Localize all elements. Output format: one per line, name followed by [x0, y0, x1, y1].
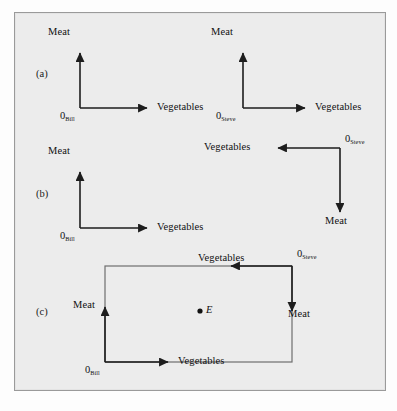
panel-b-bill-vegetables-label: Vegetables: [157, 221, 203, 232]
panel-a-steve-origin-subscript: Steve: [221, 115, 235, 122]
panel-c-steve-vegetables-label: Vegetables: [198, 252, 244, 263]
panel-a-steve-meat-label: Meat: [211, 26, 233, 37]
panel-b-steve-vegetables-label: Vegetables: [204, 141, 250, 152]
panel-b-bill-origin: 0Bill: [60, 230, 75, 241]
edgeworth-box-figure: (a) (b) (c) Meat Vegetables 0Bill Meat V…: [0, 0, 397, 411]
point-e-label: E: [206, 304, 213, 315]
panel-b-steve-meat-label: Meat: [325, 215, 347, 226]
panel-a-bill-vegetables-label: Vegetables: [157, 101, 203, 112]
panel-letter-c: (c): [36, 306, 48, 317]
panel-b-steve-origin: 0Steve: [345, 133, 365, 144]
figure-frame: [14, 12, 386, 391]
panel-a-bill-meat-label: Meat: [48, 26, 70, 37]
panel-b-steve-origin-subscript: Steve: [350, 138, 364, 145]
panel-a-steve-vegetables-label: Vegetables: [315, 101, 361, 112]
panel-letter-a: (a): [36, 68, 48, 79]
panel-c-bill-origin-subscript: Bill: [90, 369, 100, 376]
panel-c-steve-meat-label: Meat: [288, 308, 310, 319]
panel-c-bill-vegetables-label: Vegetables: [178, 355, 224, 366]
panel-letter-b: (b): [36, 188, 48, 199]
panel-a-bill-origin-subscript: Bill: [65, 115, 75, 122]
panel-a-bill-origin: 0Bill: [60, 110, 75, 121]
panel-a-steve-origin: 0Steve: [216, 110, 236, 121]
panel-c-steve-origin: 0Steve: [297, 248, 317, 259]
panel-b-bill-meat-label: Meat: [48, 145, 70, 156]
panel-b-bill-origin-subscript: Bill: [65, 235, 75, 242]
panel-c-bill-meat-label: Meat: [73, 299, 95, 310]
panel-c-bill-origin: 0Bill: [85, 364, 100, 375]
panel-c-steve-origin-subscript: Steve: [302, 253, 316, 260]
